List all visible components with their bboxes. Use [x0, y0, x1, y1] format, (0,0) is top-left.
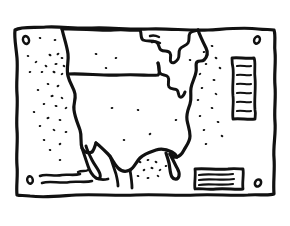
illustration-canvas: United States Map Poster	[0, 0, 290, 226]
top-right-pin-hole	[251, 34, 262, 46]
island-squiggles	[40, 170, 92, 183]
scale-legend-box	[232, 58, 255, 120]
usa-outline	[62, 29, 207, 188]
bottom-right-pin-hole	[252, 177, 264, 190]
ocean-stipple-dots	[27, 37, 224, 180]
bottom-left-pin-hole	[25, 174, 35, 185]
caption-text-box	[195, 169, 244, 190]
top-left-pin-hole	[20, 34, 31, 46]
caption-lines	[199, 174, 234, 185]
legend-tick-marks	[237, 66, 251, 112]
poster-border	[15, 27, 276, 197]
corner-pin-holes	[20, 34, 264, 190]
map-illustration: United States Map Poster	[0, 0, 290, 226]
